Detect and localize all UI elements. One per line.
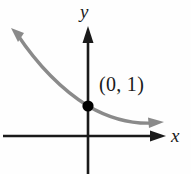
y-intercept-dot: [82, 100, 93, 111]
x-axis-arrowhead-icon: [150, 131, 166, 142]
exponential-graph-figure: y x (0, 1): [0, 0, 191, 174]
intercept-point-label: (0, 1): [99, 74, 144, 94]
y-axis-arrowhead-icon: [83, 26, 94, 43]
graph-canvas: [0, 0, 191, 174]
curve-right-arrowhead-icon: [148, 118, 164, 129]
y-axis-label: y: [80, 2, 88, 21]
x-axis-label: x: [171, 126, 179, 145]
